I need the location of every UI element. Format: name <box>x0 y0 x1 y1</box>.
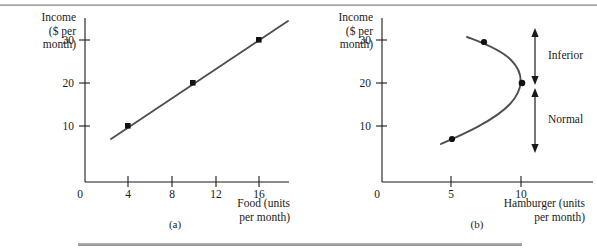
panel-a-data-point-1 <box>125 123 131 129</box>
panel-b-inferior-arrow-head-down <box>531 76 538 85</box>
panel-a-origin-label: 0 <box>77 188 83 200</box>
panel-a: Income ($ per month) 30 20 10 0 4 8 12 <box>0 0 300 249</box>
panel-a-data-point-3 <box>256 37 262 43</box>
bottom-divider-rule <box>78 243 522 246</box>
panel-b-x-axis-title-line-2: per month) <box>425 211 585 225</box>
panel-b-annotation-normal: Normal <box>548 113 583 125</box>
panel-b-y-label-30: 30 <box>360 34 372 46</box>
engel-curves-figure: Income ($ per month) 30 20 10 0 4 8 12 <box>0 0 597 249</box>
panel-a-caption: (a) <box>155 218 195 230</box>
panel-a-y-label-10: 10 <box>63 120 75 132</box>
panel-a-y-label-30: 30 <box>63 34 75 46</box>
panel-b-y-label-10: 10 <box>360 120 372 132</box>
panel-b: Income ($ per month) 30 20 10 0 5 10 <box>297 0 597 249</box>
panel-a-y-label-20: 20 <box>63 77 75 89</box>
panel-b-normal-arrow-head-down <box>531 144 538 153</box>
panel-b-inferior-arrow-head-up <box>531 28 538 37</box>
panel-b-normal-arrow-head-up <box>531 88 538 97</box>
panel-b-caption: (b) <box>457 218 497 230</box>
panel-b-x-axis-title: Hamburger (units per month) <box>425 197 585 224</box>
panel-b-x-axis-title-line-1: Hamburger (units <box>425 197 585 211</box>
panel-b-data-point-bend <box>519 80 526 87</box>
panel-b-data-point-low <box>449 136 455 142</box>
panel-a-data-point-2 <box>190 80 196 86</box>
panel-b-engel-curve <box>441 37 521 144</box>
panel-a-x-axis-title-line-1: Food (units <box>140 197 290 211</box>
panel-b-y-label-20: 20 <box>360 77 372 89</box>
panel-b-data-point-high <box>481 39 487 45</box>
panel-a-x-label-4: 4 <box>125 188 131 200</box>
panel-b-origin-label: 0 <box>374 188 380 200</box>
panel-b-annotation-inferior: Inferior <box>548 49 583 61</box>
